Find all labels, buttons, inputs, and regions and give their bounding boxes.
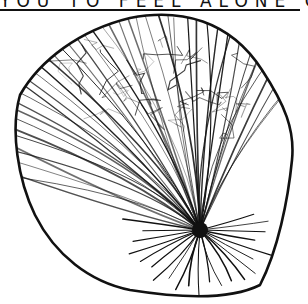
coconut-eye — [192, 222, 208, 238]
fiber-line — [200, 230, 253, 259]
fiber-line — [0, 111, 200, 230]
fiber-line — [200, 221, 268, 230]
fiber-line — [200, 230, 231, 281]
fiber-line — [200, 70, 304, 231]
coconut-drawing — [0, 0, 308, 304]
scribble-stroke — [143, 47, 182, 60]
scribble-stroke — [100, 50, 119, 95]
fiber-line — [200, 214, 254, 230]
fiber-line — [200, 53, 260, 230]
fiber-line — [133, 230, 200, 241]
fiber-hatching — [0, 0, 304, 301]
scribble-stroke — [181, 49, 207, 63]
fiber-line — [152, 230, 200, 267]
fiber-line — [143, 230, 200, 231]
fiber-line — [129, 230, 200, 254]
scribble-stroke — [113, 84, 128, 97]
fiber-line — [198, 230, 200, 301]
